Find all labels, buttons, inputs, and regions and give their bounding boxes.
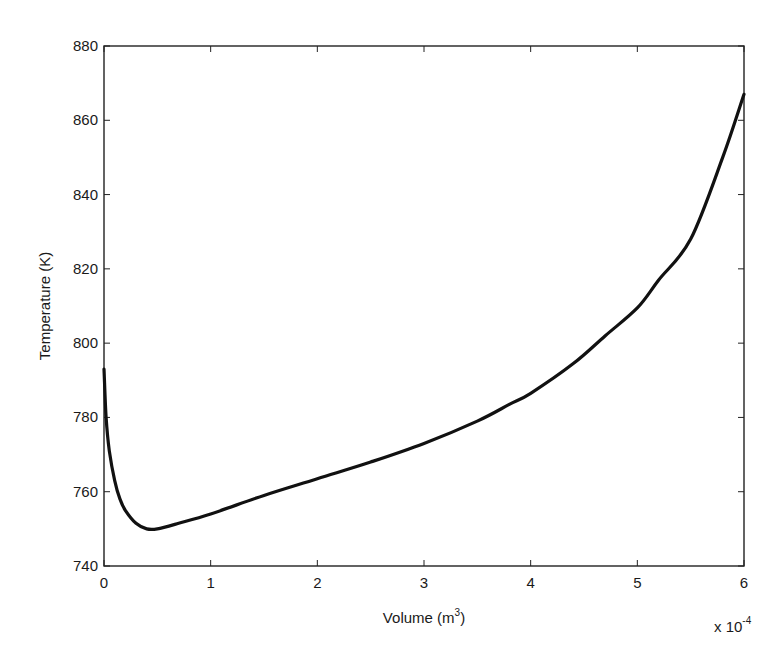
- y-tick-label: 800: [73, 334, 98, 351]
- chart-canvas: 740760780800820840860880 0123456 Volume …: [0, 0, 781, 655]
- x-tick-label: 5: [633, 574, 641, 591]
- x-tick-label: 4: [526, 574, 534, 591]
- temperature-curve: [104, 94, 744, 529]
- y-tick-label: 840: [73, 186, 98, 203]
- plot-frame: [104, 46, 744, 566]
- x-tick-label: 6: [740, 574, 748, 591]
- x-tick-labels: 0123456: [100, 574, 748, 591]
- y-axis-label: Temperature (K): [36, 252, 53, 360]
- y-tick-label: 780: [73, 408, 98, 425]
- tick-marks: [104, 46, 744, 566]
- y-tick-label: 860: [73, 111, 98, 128]
- x-tick-label: 0: [100, 574, 108, 591]
- y-tick-label: 760: [73, 483, 98, 500]
- x-axis-multiplier: x 10-4: [714, 615, 752, 635]
- y-tick-labels: 740760780800820840860880: [73, 37, 98, 574]
- x-tick-label: 1: [206, 574, 214, 591]
- x-axis-label: Volume (m3): [383, 607, 465, 626]
- y-tick-label: 880: [73, 37, 98, 54]
- x-tick-label: 3: [420, 574, 428, 591]
- x-tick-label: 2: [313, 574, 321, 591]
- plot-axes: [104, 46, 744, 566]
- y-tick-label: 820: [73, 260, 98, 277]
- y-tick-label: 740: [73, 557, 98, 574]
